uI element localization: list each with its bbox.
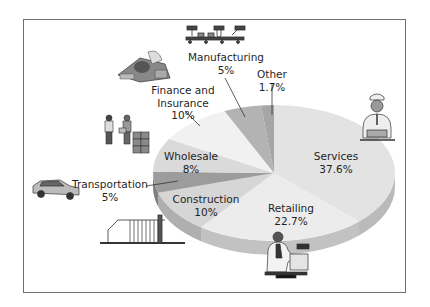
label-services: Services 37.6% (305, 150, 367, 175)
manufacturing-conveyor-icon (186, 26, 245, 44)
label-retailing: Retailing 22.7% (260, 202, 322, 227)
label-construction: Construction 10% (166, 193, 246, 218)
label-transportation: Transportation 5% (70, 178, 150, 203)
label-finance-line1: Finance and (147, 84, 219, 97)
label-manufacturing-name: Manufacturing (182, 51, 270, 64)
label-wholesale-value: 8% (160, 163, 222, 176)
label-wholesale-name: Wholesale (160, 150, 222, 163)
wholesale-workers-boxes-icon (105, 115, 149, 153)
label-finance-line2: Insurance (147, 97, 219, 110)
label-finance-value: 10% (147, 109, 219, 122)
label-construction-name: Construction (166, 193, 246, 206)
label-construction-value: 10% (166, 206, 246, 219)
label-services-name: Services (305, 150, 367, 163)
label-other-name: Other (252, 68, 292, 81)
label-transportation-name: Transportation (70, 178, 150, 191)
label-other-value: 1.7% (252, 81, 292, 94)
money-pile-icon (118, 51, 170, 82)
service-worker-icon (360, 94, 395, 140)
label-retailing-value: 22.7% (260, 215, 322, 228)
label-other: Other 1.7% (252, 68, 292, 93)
label-transportation-value: 5% (70, 191, 150, 204)
label-wholesale: Wholesale 8% (160, 150, 222, 175)
label-retailing-name: Retailing (260, 202, 322, 215)
label-services-value: 37.6% (305, 163, 367, 176)
label-finance: Finance and Insurance 10% (147, 84, 219, 122)
